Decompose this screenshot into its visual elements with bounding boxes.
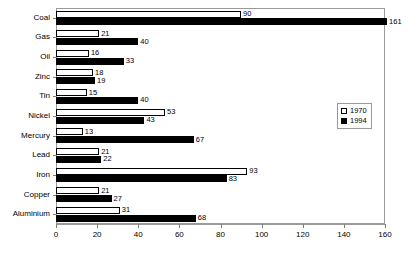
bar-iron-1994[interactable]: [56, 175, 227, 182]
bar-value-tin-1970: 15: [89, 89, 97, 97]
bar-value-zinc-1994: 19: [97, 77, 105, 85]
bar-tin-1994[interactable]: [56, 97, 138, 104]
x-axis-tick-label: 20: [93, 231, 102, 239]
bar-copper-1970[interactable]: [56, 187, 99, 194]
category-label-gas: Gas: [35, 33, 50, 41]
bar-value-gas-1994: 40: [140, 38, 148, 46]
category-label-coal: Coal: [34, 14, 50, 22]
bar-value-iron-1994: 83: [229, 175, 237, 183]
bar-value-gas-1970: 21: [101, 30, 109, 38]
x-axis-tick: [303, 224, 304, 228]
bar-value-mercury-1970: 13: [85, 128, 93, 136]
chart-row: Oil1633: [56, 47, 417, 67]
bar-copper-1994[interactable]: [56, 195, 112, 202]
bar-value-copper-1994: 27: [114, 195, 122, 203]
bar-oil-1970[interactable]: [56, 50, 89, 57]
bar-value-oil-1994: 33: [126, 57, 134, 65]
chart-row: Gas2140: [56, 28, 417, 48]
chart-row: Aluminium3168: [56, 204, 417, 224]
legend-label-1994: 1994: [350, 117, 367, 125]
bar-value-oil-1970: 16: [91, 50, 99, 58]
bar-aluminium-1994[interactable]: [56, 215, 196, 222]
bar-zinc-1970[interactable]: [56, 69, 93, 76]
category-label-nickel: Nickel: [28, 112, 50, 120]
bar-nickel-1994[interactable]: [56, 117, 144, 124]
chart-row: Coal90161: [56, 8, 417, 28]
bar-mercury-1970[interactable]: [56, 128, 83, 135]
x-axis-tick-label: 0: [54, 231, 58, 239]
legend-label-1970: 1970: [350, 107, 367, 115]
bar-value-mercury-1994: 67: [196, 136, 204, 144]
category-label-aluminium: Aluminium: [13, 210, 50, 218]
bar-value-aluminium-1994: 68: [198, 215, 206, 223]
chart-row: Zinc1819: [56, 67, 417, 87]
bar-value-nickel-1970: 53: [167, 108, 175, 116]
bar-value-aluminium-1970: 31: [122, 207, 130, 215]
bar-oil-1994[interactable]: [56, 58, 124, 65]
bar-coal-1970[interactable]: [56, 11, 241, 18]
bar-value-iron-1970: 93: [249, 167, 257, 175]
chart-row: Lead2122: [56, 145, 417, 165]
category-label-mercury: Mercury: [21, 132, 50, 140]
filled-square-icon: [341, 118, 347, 124]
bar-iron-1970[interactable]: [56, 168, 247, 175]
category-label-copper: Copper: [24, 191, 50, 199]
bar-tin-1970[interactable]: [56, 89, 87, 96]
x-axis-tick: [344, 224, 345, 228]
category-label-tin: Tin: [39, 92, 50, 100]
bar-value-coal-1970: 90: [243, 10, 251, 18]
category-label-lead: Lead: [32, 151, 50, 159]
chart-row: Copper2127: [56, 185, 417, 205]
x-axis-tick: [179, 224, 180, 228]
chart-legend: 1970 1994: [337, 103, 372, 129]
x-axis-tick: [385, 224, 386, 228]
x-axis-tick-label: 40: [134, 231, 143, 239]
legend-item-1994[interactable]: 1994: [341, 116, 367, 126]
x-axis-tick: [262, 224, 263, 228]
bar-zinc-1994[interactable]: [56, 77, 95, 84]
x-axis-tick: [97, 224, 98, 228]
bar-value-nickel-1994: 43: [146, 116, 154, 124]
x-axis-tick-label: 100: [255, 231, 268, 239]
x-axis-tick-label: 120: [296, 231, 309, 239]
bar-coal-1994[interactable]: [56, 18, 387, 25]
x-axis-tick-label: 160: [378, 231, 391, 239]
open-square-icon: [341, 108, 347, 114]
x-axis-tick: [56, 224, 57, 228]
bar-value-copper-1970: 21: [101, 187, 109, 195]
x-axis-tick-label: 60: [175, 231, 184, 239]
bar-gas-1970[interactable]: [56, 30, 99, 37]
bar-mercury-1994[interactable]: [56, 136, 194, 143]
bar-value-coal-1994: 161: [389, 18, 402, 26]
bar-gas-1994[interactable]: [56, 38, 138, 45]
bar-aluminium-1970[interactable]: [56, 207, 120, 214]
x-axis-tick-label: 80: [216, 231, 225, 239]
legend-item-1970[interactable]: 1970: [341, 106, 367, 116]
bar-chart: Coal90161Gas2140Oil1633Zinc1819Tin1540Ni…: [0, 0, 417, 260]
bar-lead-1994[interactable]: [56, 156, 101, 163]
bar-value-tin-1994: 40: [140, 97, 148, 105]
x-axis-tick: [138, 224, 139, 228]
bar-lead-1970[interactable]: [56, 148, 99, 155]
category-label-iron: Iron: [36, 171, 50, 179]
category-label-zinc: Zinc: [35, 73, 50, 81]
category-label-oil: Oil: [40, 53, 50, 61]
bar-value-lead-1994: 22: [103, 156, 111, 164]
x-axis-tick: [221, 224, 222, 228]
chart-row: Iron9383: [56, 165, 417, 185]
x-axis-tick-label: 140: [337, 231, 350, 239]
